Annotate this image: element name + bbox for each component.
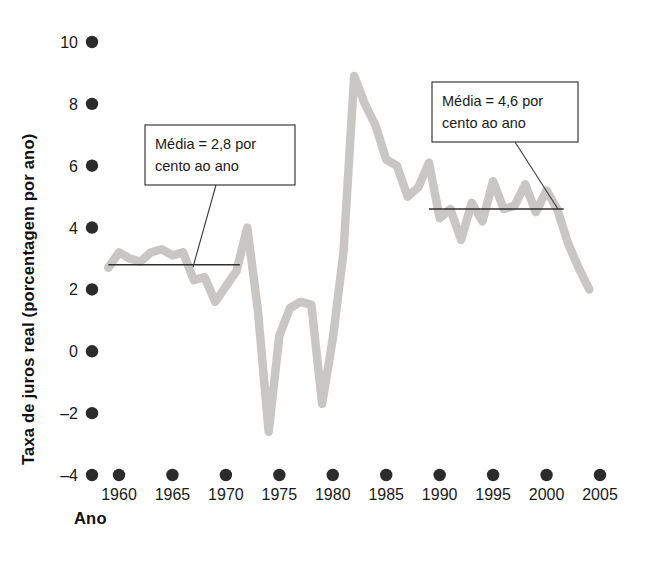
- x-tick-dot: [113, 469, 125, 481]
- annotation-line-2: cento ao ano: [155, 158, 239, 174]
- x-axis-title: Ano: [74, 509, 107, 527]
- x-tick-label: 1960: [101, 486, 137, 503]
- x-tick-label: 1990: [422, 486, 458, 503]
- y-tick-dot: [86, 221, 98, 233]
- x-tick-label: 2005: [582, 486, 618, 503]
- annotation-line-2: cento ao ano: [442, 115, 526, 131]
- chart-figure: 1086420–2–4 1960196519701975198019851990…: [0, 0, 653, 562]
- y-tick-dot: [86, 469, 98, 481]
- annotation-mean-late: Média = 4,6 porcento ao ano: [432, 82, 578, 142]
- annotation-box-border: [432, 82, 578, 142]
- x-tick-dot: [220, 469, 232, 481]
- x-tick-label: 1970: [208, 486, 244, 503]
- y-tick-dot: [86, 160, 98, 172]
- x-tick-dot: [327, 469, 339, 481]
- y-tick-label: 0: [69, 343, 78, 360]
- y-tick-label: 8: [69, 96, 78, 113]
- y-tick-dot: [86, 407, 98, 419]
- y-axis-tick-labels: 1086420–2–4: [60, 34, 78, 484]
- y-tick-label: –2: [60, 405, 78, 422]
- y-tick-label: 2: [69, 281, 78, 298]
- x-tick-dot: [433, 469, 445, 481]
- y-axis-tick-dots: [86, 36, 98, 481]
- x-tick-label: 1995: [475, 486, 511, 503]
- y-tick-label: 6: [69, 158, 78, 175]
- annotation-mean-early: Média = 2,8 porcento ao ano: [145, 125, 295, 185]
- annotation-line-1: Média = 4,6 por: [442, 93, 543, 109]
- x-tick-label: 1985: [368, 486, 404, 503]
- x-tick-label: 1975: [262, 486, 298, 503]
- x-tick-dot: [540, 469, 552, 481]
- x-axis-tick-labels: 1960196519701975198019851990199520002005: [101, 486, 618, 503]
- x-tick-dot: [380, 469, 392, 481]
- chart-canvas: 1086420–2–4 1960196519701975198019851990…: [0, 0, 653, 562]
- x-tick-dot: [594, 469, 606, 481]
- x-tick-dot: [273, 469, 285, 481]
- y-axis-title: Taxa de juros real (porcentagem por ano): [19, 134, 37, 465]
- x-tick-label: 1965: [155, 486, 191, 503]
- y-tick-dot: [86, 345, 98, 357]
- x-axis-tick-dots: [113, 469, 606, 481]
- annotation-line-1: Média = 2,8 por: [155, 136, 256, 152]
- x-tick-dot: [166, 469, 178, 481]
- x-tick-label: 1980: [315, 486, 351, 503]
- y-tick-dot: [86, 98, 98, 110]
- y-tick-label: 4: [69, 220, 78, 237]
- x-tick-label: 2000: [529, 486, 565, 503]
- y-tick-label: 10: [60, 34, 78, 51]
- annotation-box-border: [145, 125, 295, 185]
- y-tick-dot: [86, 36, 98, 48]
- annotation-leader-line: [193, 185, 216, 267]
- x-tick-dot: [487, 469, 499, 481]
- y-tick-label: –4: [60, 467, 78, 484]
- y-tick-dot: [86, 283, 98, 295]
